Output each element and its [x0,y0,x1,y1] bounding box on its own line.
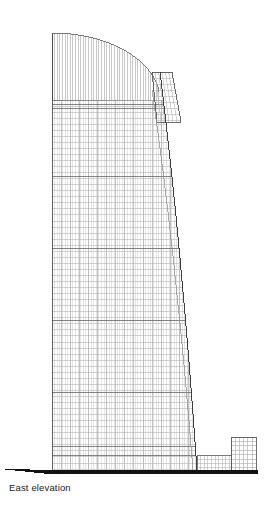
podium-grid-lines [197,455,231,470]
tower-crown-group [52,33,161,101]
podium-group [197,455,231,470]
elevation-svg [0,0,267,516]
elevation-drawing: East elevation [0,0,267,516]
tower-body-group [52,100,199,470]
ground-taper-line [2,469,44,474]
annex-grid-lines [231,437,256,470]
annex-group [231,437,256,470]
figure-caption: East elevation [9,482,71,494]
tower-inner-curve-edge [152,90,193,470]
tower-right-curve-edge [160,72,197,470]
ground-line [44,470,258,474]
